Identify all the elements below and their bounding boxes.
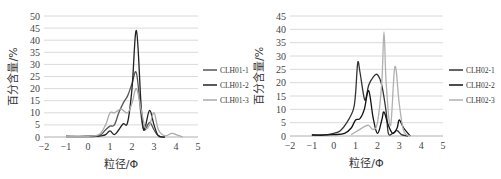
legend-label: CLH01-2: [220, 81, 249, 90]
y-tick-label: 30: [30, 59, 40, 70]
x-axis-title: 粒径/Φ: [349, 156, 384, 170]
y-tick-label: 35: [30, 47, 40, 58]
series-line-clh01-1: [66, 72, 165, 137]
y-tick-label: 40: [276, 24, 286, 35]
series-line-clh02-3: [351, 32, 410, 136]
y-tick-label: 10: [30, 107, 40, 118]
legend-label: CLH01-1: [220, 66, 249, 75]
chart-clh01-svg: 05101520253035404550−2−1012345粒径/Φ百分含量/%…: [0, 0, 250, 179]
y-axis-title: 百分含量/%: [6, 47, 20, 105]
x-tick-label: 2: [375, 140, 380, 151]
x-tick-label: 5: [196, 141, 201, 152]
legend-label: CLH02-2: [466, 81, 495, 90]
x-tick-label: 0: [86, 141, 91, 152]
y-tick-label: 5: [281, 117, 286, 128]
legend-label: CLH01-3: [220, 96, 249, 105]
x-tick-label: 4: [174, 141, 179, 152]
legend-label: CLH02-3: [466, 96, 495, 105]
y-tick-label: 10: [276, 104, 286, 115]
chart-clh02-svg: 051015202530354045−2−1012345粒径/Φ百分含量/%CL…: [250, 0, 501, 179]
chart-clh01: 05101520253035404550−2−1012345粒径/Φ百分含量/%…: [0, 0, 250, 179]
x-tick-label: −2: [285, 140, 296, 151]
y-tick-label: 35: [276, 37, 286, 48]
x-tick-label: −1: [61, 141, 72, 152]
y-tick-label: 45: [276, 11, 286, 22]
y-tick-label: 5: [35, 119, 40, 130]
chart-clh02: 051015202530354045−2−1012345粒径/Φ百分含量/%CL…: [250, 0, 501, 179]
y-tick-label: 50: [30, 11, 40, 22]
y-tick-label: 15: [276, 91, 286, 102]
y-tick-label: 25: [276, 64, 286, 75]
y-tick-label: 45: [30, 23, 40, 34]
y-tick-label: 20: [276, 77, 286, 88]
x-tick-label: 1: [353, 140, 358, 151]
x-tick-label: 5: [441, 140, 446, 151]
x-tick-label: 1: [108, 141, 113, 152]
y-tick-label: 40: [30, 35, 40, 46]
y-tick-label: 30: [276, 51, 286, 62]
x-tick-label: 2: [130, 141, 135, 152]
x-axis-title: 粒径/Φ: [104, 157, 139, 171]
x-tick-label: 3: [397, 140, 402, 151]
y-axis-title: 百分含量/%: [252, 47, 266, 105]
y-tick-label: 25: [30, 71, 40, 82]
x-tick-label: −1: [307, 140, 318, 151]
x-tick-label: −2: [39, 141, 50, 152]
x-tick-label: 0: [331, 140, 336, 151]
x-tick-label: 4: [419, 140, 424, 151]
y-tick-label: 15: [30, 95, 40, 106]
legend-label: CLH02-1: [466, 66, 495, 75]
y-tick-label: 20: [30, 83, 40, 94]
x-tick-label: 3: [152, 141, 157, 152]
